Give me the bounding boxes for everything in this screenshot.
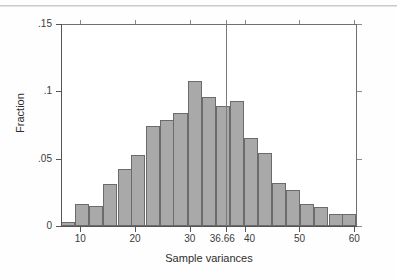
histogram-bar <box>103 184 117 226</box>
x-tick-mark <box>299 227 300 232</box>
histogram-bar <box>230 101 244 226</box>
x-tick-mark <box>190 227 191 232</box>
x-tick-mark-top <box>299 20 300 24</box>
histogram-bar <box>300 204 314 226</box>
histogram-bar <box>160 120 174 226</box>
y-tick-label: 0 <box>46 220 52 231</box>
histogram-bar <box>286 190 300 226</box>
x-tick-mark <box>135 227 136 232</box>
x-tick-mark <box>226 227 227 232</box>
histogram-bar <box>131 155 145 226</box>
x-tick-mark-top <box>135 20 136 24</box>
x-tick-mark-top <box>80 20 81 24</box>
x-tick-mark <box>80 227 81 232</box>
histogram-bar <box>89 206 103 226</box>
histogram-bar <box>216 106 230 226</box>
histogram-bar <box>188 81 202 226</box>
y-tick-mark <box>56 226 61 227</box>
histogram-bar <box>118 169 132 226</box>
x-tick-mark-top <box>190 20 191 24</box>
y-tick-mark-right <box>357 91 362 92</box>
histogram-bar <box>173 113 187 226</box>
histogram-figure: 0.05.1.1510203036.66405060 Sample varian… <box>0 0 397 280</box>
histogram-bars <box>61 24 357 226</box>
y-axis-title: Fraction <box>14 63 26 163</box>
x-tick-label: 60 <box>324 233 384 244</box>
x-axis-line <box>61 226 358 227</box>
reference-line-36-66 <box>226 24 227 226</box>
y-tick-mark <box>56 91 61 92</box>
x-axis-title: Sample variances <box>61 252 357 264</box>
x-tick-mark-top <box>245 20 246 24</box>
histogram-bar <box>146 126 160 226</box>
y-axis-line <box>61 24 62 227</box>
page-edge-line-secondary <box>0 6 397 7</box>
y-tick-mark <box>56 24 61 25</box>
histogram-bar <box>329 214 343 226</box>
x-tick-label: 10 <box>50 233 110 244</box>
histogram-bar <box>75 204 89 226</box>
y-tick-mark-right <box>357 226 362 227</box>
y-tick-label: .15 <box>38 18 52 29</box>
y-tick-mark-right <box>357 159 362 160</box>
x-tick-label: 20 <box>105 233 165 244</box>
y-tick-label: .1 <box>44 85 52 96</box>
histogram-bar <box>314 207 328 226</box>
x-tick-mark <box>245 227 246 232</box>
x-tick-label: 50 <box>269 233 329 244</box>
histogram-bar <box>202 97 216 226</box>
histogram-bar <box>244 138 258 226</box>
histogram-bar <box>258 153 272 226</box>
x-tick-mark <box>354 227 355 232</box>
histogram-bar <box>342 214 356 226</box>
y-tick-mark-right <box>357 24 362 25</box>
x-tick-mark-top <box>226 20 227 24</box>
histogram-bar <box>272 183 286 226</box>
y-tick-label: .05 <box>38 153 52 164</box>
x-tick-mark-top <box>354 20 355 24</box>
y-tick-mark <box>56 159 61 160</box>
